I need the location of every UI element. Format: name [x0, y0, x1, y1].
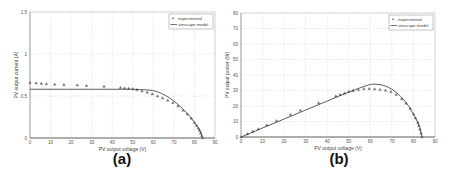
y-tick-label: 50 — [233, 57, 239, 62]
series-marker-experimental — [384, 89, 387, 91]
series-marker-experimental — [76, 84, 79, 86]
y-tick-label: 70 — [233, 26, 239, 31]
y-tick-label: 80 — [233, 11, 239, 16]
series-marker-experimental — [85, 84, 88, 86]
chart-a-plot: 010203040506070809000.511.5PV output vol… — [0, 0, 225, 173]
series-marker-experimental — [35, 82, 38, 84]
y-tick-label: 40 — [233, 73, 239, 78]
series-line-simscape-model — [30, 89, 203, 138]
series-marker-experimental — [29, 81, 32, 83]
x-tick-label: 40 — [325, 139, 331, 144]
x-tick-label: 30 — [89, 140, 95, 145]
y-tick-label: 1.5 — [21, 10, 28, 15]
chart-b-plot: 010203040506070809001020304050607080PV o… — [225, 0, 450, 173]
series-marker-experimental — [53, 83, 56, 85]
series-marker-experimental — [63, 83, 66, 85]
x-tick-label: 70 — [389, 139, 395, 144]
y-tick-label: 30 — [233, 88, 239, 93]
x-tick-label: 10 — [48, 140, 54, 145]
panel-label-a: (a) — [102, 150, 142, 167]
legend: experimentalsimscape model — [389, 15, 433, 30]
y-axis-label: PV output current (A) — [13, 51, 19, 98]
series-marker-experimental — [363, 87, 366, 89]
series-line-simscape-model — [241, 84, 422, 137]
series-marker-experimental — [123, 87, 126, 89]
series-marker-experimental — [299, 109, 302, 111]
series-marker-experimental — [161, 97, 164, 99]
x-tick-label: 50 — [130, 140, 136, 145]
x-tick-label: 60 — [368, 139, 374, 144]
legend: experimentalsimscape model — [169, 14, 213, 29]
series-marker-experimental — [146, 91, 149, 93]
legend-entry-experimental: experimental — [398, 17, 422, 22]
series-marker-experimental — [103, 85, 106, 87]
x-tick-label: 10 — [260, 139, 266, 144]
legend-entry-experimental: experimental — [178, 16, 202, 21]
series-marker-experimental — [373, 88, 376, 90]
legend-entry-simscape-model: simscape model — [178, 22, 208, 27]
x-tick-label: 20 — [282, 139, 288, 144]
chart-panel-b: 010203040506070809001020304050607080PV o… — [225, 0, 450, 173]
series-marker-experimental — [317, 101, 320, 103]
y-tick-label: 1 — [24, 52, 27, 57]
y-tick-label: 10 — [233, 119, 239, 124]
x-tick-label: 0 — [240, 139, 243, 144]
x-tick-label: 60 — [151, 140, 157, 145]
x-tick-label: 0 — [29, 140, 32, 145]
x-tick-label: 90 — [432, 139, 438, 144]
y-tick-label: 0 — [24, 136, 27, 141]
y-tick-label: 0.5 — [21, 94, 28, 99]
series-marker-experimental — [166, 99, 169, 101]
x-tick-label: 40 — [110, 140, 116, 145]
y-tick-label: 0 — [235, 135, 238, 140]
x-tick-label: 30 — [303, 139, 309, 144]
panel-label-b: (b) — [319, 150, 359, 167]
x-tick-label: 80 — [192, 140, 198, 145]
legend-entry-simscape-model: simscape model — [398, 23, 428, 28]
series-marker-experimental — [40, 82, 43, 84]
x-tick-label: 90 — [212, 140, 218, 145]
axes-box — [30, 12, 215, 138]
y-tick-label: 60 — [233, 42, 239, 47]
series-marker-experimental — [45, 83, 48, 85]
series-marker-experimental — [119, 86, 122, 88]
x-tick-label: 20 — [69, 140, 75, 145]
series-marker-experimental — [289, 113, 292, 115]
x-tick-label: 80 — [411, 139, 417, 144]
chart-panel-a: 010203040506070809000.511.5PV output vol… — [0, 0, 225, 173]
y-tick-label: 20 — [233, 104, 239, 109]
x-tick-label: 50 — [346, 139, 352, 144]
x-tick-label: 70 — [171, 140, 177, 145]
y-axis-label: PV output power (W) — [225, 51, 230, 98]
series-marker-experimental — [379, 88, 382, 90]
